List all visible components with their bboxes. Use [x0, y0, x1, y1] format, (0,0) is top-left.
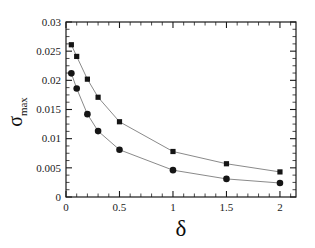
data-series-layer — [68, 42, 283, 186]
data-point-circle — [73, 85, 80, 92]
series-upper-branch — [69, 42, 283, 174]
data-point-circle — [116, 146, 123, 153]
series-lower-branch — [68, 70, 283, 186]
sigma-max-vs-delta-chart: 00.0050.010.0150.020.0250.03 00.511.52 δ… — [0, 0, 315, 248]
x-tick-label: 0.5 — [113, 201, 127, 213]
x-axis-tick-labels: 00.511.52 — [63, 201, 282, 213]
x-tick-label: 1 — [170, 201, 176, 213]
series-line — [71, 45, 280, 172]
data-point-circle — [95, 128, 102, 135]
data-point-square — [69, 42, 74, 47]
y-tick-label: 0.025 — [36, 45, 61, 57]
data-point-circle — [84, 111, 91, 118]
y-axis-tick-labels: 00.0050.010.0150.020.0250.03 — [36, 16, 61, 203]
data-point-square — [224, 161, 229, 166]
x-tick-label: 2 — [277, 201, 283, 213]
x-tick-label: 1.5 — [220, 201, 234, 213]
x-tick-label: 0 — [63, 201, 69, 213]
axes-border — [66, 22, 296, 197]
data-point-circle — [170, 167, 177, 174]
y-tick-label: 0.015 — [36, 103, 61, 115]
data-point-square — [277, 169, 282, 174]
y-tick-label: 0.03 — [42, 16, 62, 28]
y-axis-title-text: σmax — [4, 97, 29, 127]
y-axis-ticks — [66, 22, 296, 197]
x-axis-title: δ — [176, 216, 187, 241]
y-axis-title-symbol: σ — [4, 116, 26, 127]
y-tick-label: 0 — [56, 191, 62, 203]
y-axis-title-subscript: max — [17, 97, 29, 116]
data-point-square — [85, 77, 90, 82]
y-axis-title: σmax — [4, 97, 29, 127]
x-axis-title-text: δ — [176, 216, 187, 241]
data-point-circle — [223, 176, 230, 183]
data-point-circle — [68, 70, 75, 77]
data-point-square — [95, 95, 100, 100]
chart-figure: 00.0050.010.0150.020.0250.03 00.511.52 δ… — [0, 0, 315, 248]
plot-frame — [66, 22, 296, 197]
data-point-square — [170, 149, 175, 154]
data-point-square — [117, 119, 122, 124]
y-tick-label: 0.01 — [42, 132, 61, 144]
data-point-circle — [277, 180, 284, 187]
data-point-square — [74, 54, 79, 59]
y-tick-label: 0.02 — [42, 74, 61, 86]
y-tick-label: 0.005 — [36, 162, 61, 174]
series-line — [71, 73, 280, 183]
